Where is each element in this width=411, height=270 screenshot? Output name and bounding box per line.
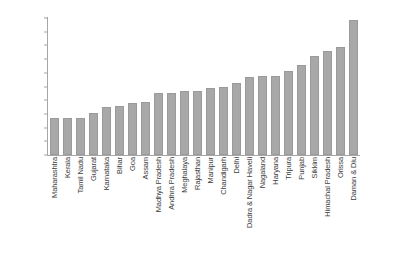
bar	[323, 51, 331, 155]
x-axis-tick-label: Chandigarh	[220, 157, 228, 195]
x-axis-tick-label: Tamil Nadu	[77, 157, 85, 194]
bar	[115, 106, 123, 155]
x-axis-tick-label: Daman & Diu	[350, 157, 358, 201]
bar-slot	[167, 18, 175, 155]
bar-slot	[271, 18, 279, 155]
bar	[193, 91, 201, 155]
bar	[167, 93, 175, 155]
x-axis-tick-label: Manipur	[207, 157, 215, 183]
bar-slot	[89, 18, 97, 155]
bar-slot	[63, 18, 71, 155]
x-axis-tick-label: Haryana	[272, 157, 280, 185]
bar-slot	[180, 18, 188, 155]
bar-slot	[310, 18, 318, 155]
bar-slot	[76, 18, 84, 155]
bar	[310, 56, 318, 155]
bar	[76, 118, 84, 155]
x-axis-tick-label: Meghalaya	[181, 157, 189, 193]
bar	[271, 76, 279, 155]
bar	[349, 20, 357, 155]
bar	[297, 65, 305, 155]
x-axis-tick-label: Assam	[142, 157, 150, 179]
bar-slot	[206, 18, 214, 155]
bar	[232, 83, 240, 155]
y-axis-ticks: 100%90%80%70%60%50%40%30%20%10%0%	[0, 0, 48, 270]
bar-slot	[219, 18, 227, 155]
x-axis-tick-label: Delhi	[233, 157, 241, 174]
bar-slot	[115, 18, 123, 155]
x-axis-tick-label: Sikkim	[311, 157, 319, 178]
x-axis-labels: MaharashtraKeralaTamil NaduGujaratKarnat…	[48, 157, 360, 269]
bar	[128, 103, 136, 155]
x-axis-tick-label: Nagaland	[259, 157, 267, 188]
bar-slot	[154, 18, 162, 155]
bar	[154, 93, 162, 155]
x-axis-tick-label: Punjab	[298, 157, 306, 180]
bar-slot	[349, 18, 357, 155]
bar-slot	[245, 18, 253, 155]
x-axis-tick-label: Dadra & Nagar Haveli	[246, 157, 254, 228]
bars-container	[48, 18, 360, 155]
bar	[180, 91, 188, 155]
bar-chart: 100%90%80%70%60%50%40%30%20%10%0% Mahara…	[0, 0, 411, 270]
bar-slot	[284, 18, 292, 155]
x-axis-line	[47, 155, 360, 156]
x-axis-tick-label: Goa	[129, 157, 137, 171]
bar	[89, 113, 97, 155]
x-axis-tick-label: Himachal Pradesh	[324, 157, 332, 217]
bar-slot	[336, 18, 344, 155]
bar-slot	[258, 18, 266, 155]
x-axis-tick-label: Karnataka	[103, 157, 111, 190]
x-axis-tick-label: Gujarat	[90, 157, 98, 181]
x-axis-tick-label: Tripura	[285, 157, 293, 180]
bar	[284, 71, 292, 155]
bar-slot	[141, 18, 149, 155]
bar	[336, 47, 344, 155]
bar-slot	[323, 18, 331, 155]
bar	[50, 118, 58, 155]
bar	[102, 107, 110, 155]
bar	[63, 118, 71, 155]
bar-slot	[128, 18, 136, 155]
x-axis-tick-label: Orissa	[337, 157, 345, 178]
bar	[206, 88, 214, 155]
x-axis-tick-label: Rajasthan	[194, 157, 202, 190]
x-axis-tick-label: Andhra Pradesh	[168, 157, 176, 210]
x-axis-tick-label: Madhya Pradesh	[155, 157, 163, 212]
bar	[141, 102, 149, 155]
bar-slot	[50, 18, 58, 155]
bar	[258, 76, 266, 155]
bar-slot	[297, 18, 305, 155]
bar	[219, 87, 227, 155]
x-axis-tick-label: Maharashtra	[51, 157, 59, 198]
bar-slot	[232, 18, 240, 155]
x-axis-tick-label: Kerala	[64, 157, 72, 178]
x-axis-tick-label: Bihar	[116, 157, 124, 174]
bar	[245, 77, 253, 155]
bar-slot	[193, 18, 201, 155]
bar-slot	[102, 18, 110, 155]
